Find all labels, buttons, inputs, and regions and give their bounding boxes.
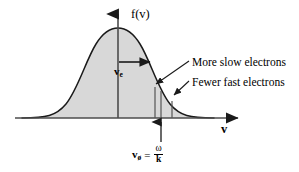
phase-velocity-equation: vø = ω k — [132, 145, 164, 166]
x-axis-label: v — [221, 123, 227, 136]
y-axis-label: f(v) — [131, 8, 150, 21]
electron-velocity-subscript: e — [120, 70, 123, 79]
leader-line-more-slow — [156, 61, 189, 84]
annotation-more-slow-electrons: More slow electrons — [192, 57, 286, 69]
fraction-numerator-omega: ω — [153, 144, 163, 154]
equals-sign: = — [144, 150, 150, 161]
leader-line-fewer-fast — [174, 81, 189, 95]
phase-velocity-symbol-subscript: ø — [138, 153, 142, 162]
velocity-distribution-figure: f(v) v ve More slow electrons Fewer fast… — [0, 0, 299, 172]
annotation-fewer-fast-electrons: Fewer fast electrons — [192, 77, 285, 89]
fraction-denominator-k: k — [154, 154, 163, 165]
omega-over-k-fraction: ω k — [153, 144, 163, 165]
phase-velocity-symbol: vø — [132, 149, 141, 162]
electron-velocity-label: ve — [114, 66, 123, 79]
